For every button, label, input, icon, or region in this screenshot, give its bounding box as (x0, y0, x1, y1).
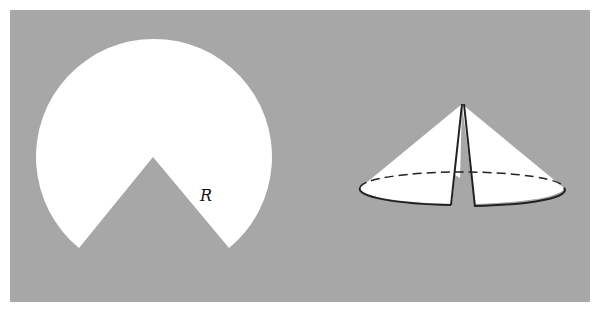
cone (360, 104, 565, 207)
radius-label: R (199, 186, 212, 205)
circle-sector (36, 39, 272, 248)
figure-canvas: R (0, 0, 603, 312)
